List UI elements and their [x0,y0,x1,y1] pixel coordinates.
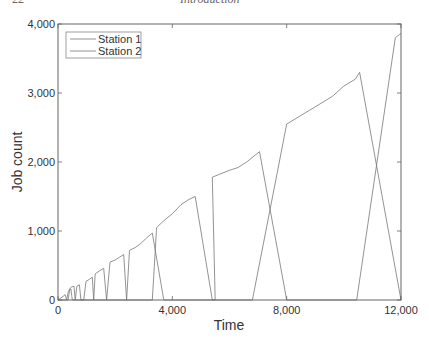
plot-lines [58,34,401,300]
x-tick-label: 12,000 [384,304,418,316]
y-tick-label: 2,000 [27,156,55,168]
job-count-chart: 04,0008,00012,000 01,0002,0003,0004,000 … [0,0,429,346]
legend-label-station-2: Station 2 [98,45,141,57]
x-tick-label: 0 [55,304,61,316]
x-axis-title: Time [214,317,245,333]
plot-frame [58,24,401,300]
legend: Station 1 Station 2 [66,32,141,58]
series-line-station-1 [58,72,401,300]
x-tick-label: 8,000 [273,304,301,316]
y-tick-label: 4,000 [27,18,55,30]
y-tick-label: 0 [49,294,55,306]
y-tick-label: 3,000 [27,87,55,99]
y-axis-title: Job count [9,132,25,193]
y-tick-label: 1,000 [27,225,55,237]
legend-label-station-1: Station 1 [98,33,141,45]
x-tick-label: 4,000 [159,304,187,316]
series-line-station-2 [58,34,401,300]
